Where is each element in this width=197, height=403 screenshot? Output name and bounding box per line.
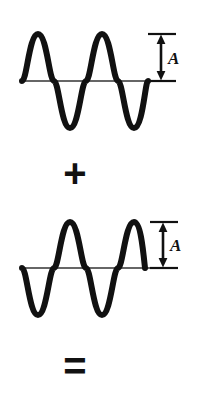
wave-1-amplitude-arrowhead-up [157,35,166,45]
wave-2-amplitude-arrowhead-up [159,223,168,233]
wave-1-amplitude-arrowhead-down [157,71,166,81]
plus-operator: + [0,153,150,193]
wave-2-svg: A [0,205,197,330]
wave-1-amplitude-label: A [167,49,179,68]
operator-plus-row: + [0,145,197,205]
operator-equals-row: = [0,330,197,403]
wave-2-amplitude-label: A [169,236,181,255]
wave-1-svg: A [0,0,197,145]
wave-superposition-figure: A + A = [0,0,197,403]
equals-operator: = [0,346,150,386]
wave-panel-bottom: A [0,205,197,330]
wave-panel-top: A [0,0,197,145]
wave-2-amplitude-arrowhead-down [159,258,168,268]
